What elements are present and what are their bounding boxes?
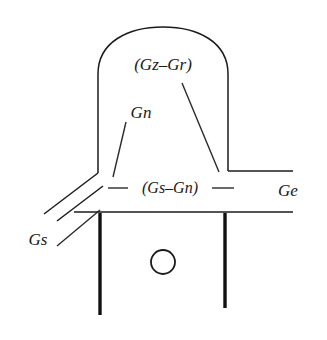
center-circle: [151, 250, 175, 274]
label-ge: Ge: [278, 181, 298, 200]
label-gn: Gn: [131, 103, 152, 122]
gn-leader-line: [113, 122, 126, 177]
left-flare-lower-line: [57, 186, 103, 221]
diagram-figure: (Gz–Gr) Gn (Gs–Gn) Ge Gs: [0, 0, 327, 340]
dome-outline: [98, 27, 228, 173]
label-gs-gn: (Gs–Gn): [142, 179, 198, 197]
left-flare-upper-line: [44, 173, 98, 214]
gz-gr-leader-line: [182, 83, 219, 172]
diagram-canvas: (Gz–Gr) Gn (Gs–Gn) Ge Gs: [0, 0, 327, 340]
label-gz-gr: (Gz–Gr): [134, 55, 192, 74]
label-gs: Gs: [29, 230, 48, 249]
